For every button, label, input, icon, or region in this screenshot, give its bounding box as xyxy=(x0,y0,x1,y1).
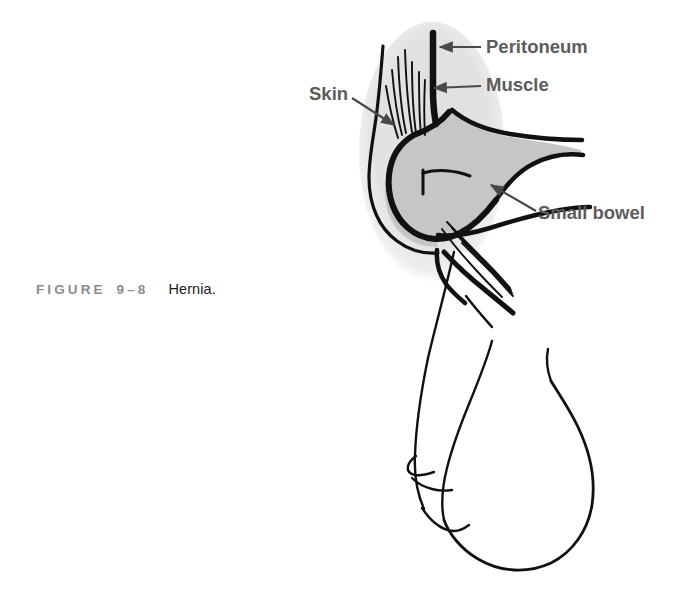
label-peritoneum: Peritoneum xyxy=(486,38,588,57)
caption-title: Hernia. xyxy=(168,281,215,297)
peritoneum-line xyxy=(433,33,436,124)
label-muscle: Muscle xyxy=(486,76,549,95)
label-skin: Skin xyxy=(309,85,348,104)
caption-figure-number: 9–8 xyxy=(117,282,149,297)
caption-figure-word: FIGURE xyxy=(36,282,106,297)
figure-container: Peritoneum Muscle Skin Small bowel FIGUR… xyxy=(0,0,690,595)
label-small-bowel: Small bowel xyxy=(538,204,645,223)
figure-caption: FIGURE9–8Hernia. xyxy=(36,281,216,297)
